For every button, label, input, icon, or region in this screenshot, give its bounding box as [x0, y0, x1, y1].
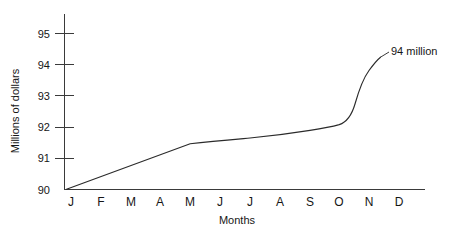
x-axis-title: Months [219, 214, 256, 226]
x-tick-label-jul: J [247, 195, 253, 209]
y-axis-title: Millions of dollars [9, 68, 21, 153]
line-chart: 95 94 93 92 91 90 Millions of dollars 94… [0, 0, 456, 235]
x-tick-label-may: M [185, 195, 195, 209]
x-tick-label-apr: A [156, 195, 164, 209]
x-axis-tick-labels: J F M A M J J A S O N D [68, 195, 404, 209]
y-tick-label-91: 91 [38, 152, 50, 164]
x-tick-label-aug: A [276, 195, 284, 209]
x-tick-label-sep: S [306, 195, 314, 209]
data-series-line [67, 57, 381, 189]
y-tick-label-93: 93 [38, 90, 50, 102]
annotation-label-94-million: 94 million [391, 45, 437, 57]
x-tick-label-dec: D [395, 195, 404, 209]
x-tick-label-jun: J [217, 195, 223, 209]
y-tick-label-90: 90 [38, 184, 50, 196]
x-tick-label-mar: M [126, 195, 136, 209]
y-tick-label-94: 94 [38, 59, 50, 71]
chart-canvas: 95 94 93 92 91 90 Millions of dollars 94… [0, 0, 456, 235]
x-tick-label-oct: O [334, 195, 343, 209]
y-axis-tick-labels: 95 94 93 92 91 90 [38, 28, 50, 196]
y-tick-label-95: 95 [38, 28, 50, 40]
x-tick-label-nov: N [365, 195, 374, 209]
annotation-leader-line [381, 52, 390, 57]
x-tick-label-jan: J [68, 195, 74, 209]
y-tick-label-92: 92 [38, 121, 50, 133]
x-tick-label-feb: F [97, 195, 104, 209]
